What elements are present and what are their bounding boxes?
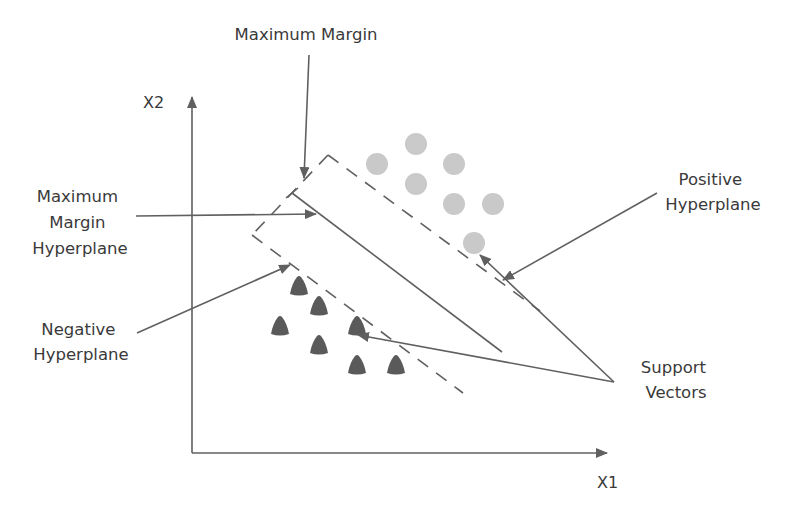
support-vectors-label: Support Vectors [641, 358, 711, 402]
labels: Maximum Margin Maximum Margin Hyperplane… [32, 25, 760, 402]
positive-hyperplane-label: Positive Hyperplane [665, 170, 760, 214]
positive-class-points [366, 133, 504, 254]
negative-hyperplane-arrow [137, 265, 290, 333]
negative-point-triangle [310, 335, 328, 355]
negative-point-triangle [290, 276, 308, 296]
axes: X2 X1 [143, 93, 618, 492]
annotation-arrows [136, 55, 657, 382]
negative-class-points [271, 276, 405, 375]
positive-point-circle [366, 153, 388, 175]
max-margin-hyperplane-arrow [136, 214, 316, 216]
positive-hyperplane-line [328, 155, 540, 311]
negative-hyperplane-label: Negative Hyperplane [33, 320, 128, 364]
x-axis-label: X1 [597, 473, 618, 492]
max-margin-hyperplane-line [292, 193, 502, 352]
positive-support-vector-circle [463, 232, 485, 254]
max-margin-hyperplane-label: Maximum Margin Hyperplane [32, 187, 127, 258]
negative-point-triangle [310, 296, 328, 316]
support-vector-arrow-positive [480, 255, 614, 382]
maximum-margin-label: Maximum Margin [235, 25, 378, 44]
negative-point-triangle [387, 355, 405, 375]
positive-point-circle [405, 133, 427, 155]
negative-point-triangle [348, 355, 366, 375]
positive-point-circle [405, 173, 427, 195]
positive-point-circle [443, 153, 465, 175]
positive-hyperplane-arrow [503, 193, 657, 280]
positive-point-circle [443, 193, 465, 215]
y-axis-label: X2 [143, 93, 164, 112]
svm-diagram: X2 X1 Maximum Margin Maximum Margin Hype… [0, 0, 792, 515]
negative-point-triangle [271, 316, 289, 336]
positive-point-circle [482, 193, 504, 215]
maximum-margin-arrow [304, 55, 309, 178]
